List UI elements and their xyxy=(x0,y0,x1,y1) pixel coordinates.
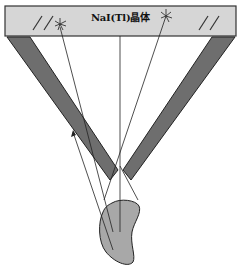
collimator-right-arm xyxy=(123,37,235,180)
ray-left-to-scintillation xyxy=(60,27,113,232)
diagram-canvas xyxy=(0,0,241,273)
crystal-label: NaI(Tl)晶体 xyxy=(0,9,241,24)
collimator-left-arm xyxy=(7,37,118,180)
